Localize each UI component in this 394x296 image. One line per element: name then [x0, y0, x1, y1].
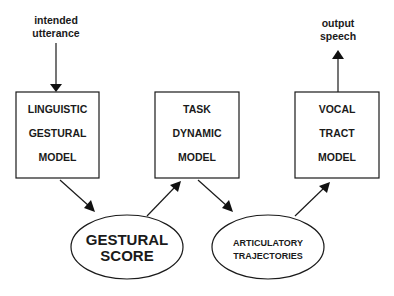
output-label-line2: speech: [320, 30, 356, 42]
arrow-box1-to-gestural-score: [60, 180, 89, 206]
box1-line2: GESTURAL: [29, 127, 87, 139]
ellipse2-line1: ARTICULATORY: [233, 238, 303, 248]
box1-line3: MODEL: [39, 151, 78, 163]
box3-line2: TRACT: [319, 127, 355, 139]
arrow-articulatory-trajectories-to-box3: [295, 188, 324, 216]
box2-line3: MODEL: [178, 151, 217, 163]
box3-line1: VOCAL: [319, 103, 356, 115]
arrow-gestural-score-to-box2: [147, 187, 175, 216]
output-arrowhead-icon: [332, 50, 344, 59]
ellipse1-line1: GESTURAL: [86, 231, 169, 248]
box2-line1: TASK: [183, 103, 211, 115]
arrowhead-box2-to-articulatory-trajectories-icon: [222, 200, 233, 212]
box3-line3: MODEL: [318, 151, 357, 163]
box2-line2: DYNAMIC: [173, 127, 222, 139]
box1-line1: LINGUISTIC: [28, 103, 88, 115]
ellipse1-line2: SCORE: [100, 247, 153, 264]
ellipse2-line2: TRAJECTORIES: [233, 251, 302, 261]
input-label-line1: intended: [34, 14, 78, 26]
arrowhead-box1-to-gestural-score-icon: [84, 200, 95, 212]
arrow-box2-to-articulatory-trajectories: [198, 180, 227, 206]
input-label-line2: utterance: [32, 27, 79, 39]
output-label-line1: output: [322, 17, 355, 29]
speech-production-diagram: intended utterance LINGUISTIC GESTURAL M…: [0, 0, 394, 296]
input-arrowhead-icon: [50, 84, 62, 92]
